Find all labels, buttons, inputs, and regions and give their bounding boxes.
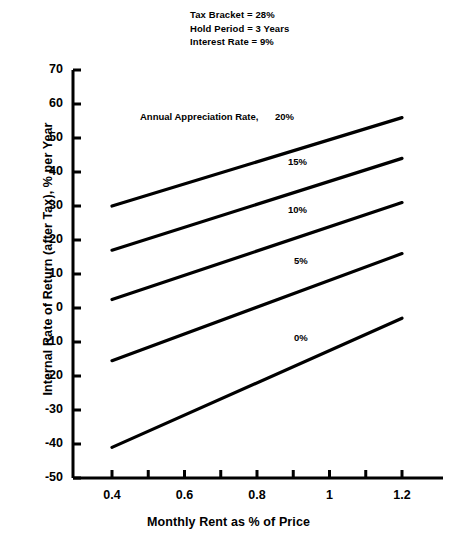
series-line-0 [112, 318, 402, 447]
axes [73, 70, 443, 478]
series-line-20 [112, 118, 402, 206]
series-line-10 [112, 203, 402, 300]
data-lines [112, 118, 402, 448]
plot-canvas [0, 0, 457, 557]
series-line-5 [112, 254, 402, 361]
chart-figure: Tax Bracket = 28% Hold Period = 3 Years … [0, 0, 457, 557]
series-line-15 [112, 158, 402, 250]
